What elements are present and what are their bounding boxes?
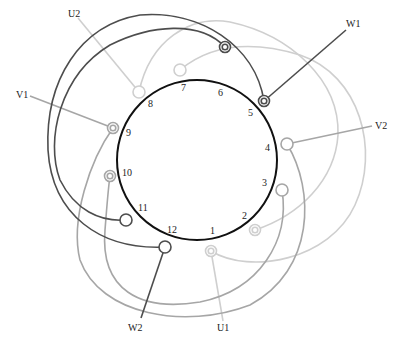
stator-circle	[117, 80, 277, 240]
terminal-label-u1: U1	[217, 322, 229, 333]
slot-labels: 1 2 3 4 5 6 7 8 9 10 11 12	[122, 82, 270, 236]
lead-u2	[78, 18, 139, 92]
lead-v1	[30, 96, 113, 128]
terminal-slot-6-inner	[222, 44, 228, 50]
slot-label-8: 8	[148, 98, 153, 109]
terminal-label-v1: V1	[16, 89, 28, 100]
lead-u1	[211, 251, 223, 321]
terminal-label-u2: U2	[68, 8, 80, 19]
slot-label-12: 12	[167, 224, 177, 235]
terminal-label-w2: W2	[128, 322, 142, 333]
coil-v-b	[77, 128, 304, 317]
slot-label-9: 9	[126, 127, 131, 138]
slot-label-10: 10	[122, 167, 132, 178]
coil-w-b	[48, 15, 264, 248]
slot-label-5: 5	[248, 107, 253, 118]
lead-w1	[264, 30, 346, 101]
terminal-label-v2: V2	[375, 120, 387, 131]
slot-label-7: 7	[181, 82, 186, 93]
slot-label-1: 1	[210, 225, 215, 236]
terminal-slot-4[interactable]	[281, 138, 293, 150]
terminal-slot-11[interactable]	[120, 214, 132, 226]
coil-u-a	[180, 47, 366, 262]
terminal-slot-7[interactable]	[174, 64, 186, 76]
terminal-slot-1-inner	[208, 248, 214, 254]
lead-v2	[287, 126, 372, 144]
terminal-slot-5-inner	[261, 98, 267, 104]
slot-label-2: 2	[242, 210, 247, 221]
terminal-slot-9-inner	[110, 125, 116, 131]
slot-label-3: 3	[262, 177, 267, 188]
terminal-slot-10-inner	[107, 173, 113, 179]
terminal-label-w1: W1	[346, 18, 360, 29]
terminal-slot-12[interactable]	[159, 241, 171, 253]
lead-w2	[141, 247, 165, 318]
terminal-slot-3[interactable]	[276, 184, 288, 196]
slot-label-6: 6	[218, 87, 223, 98]
terminal-slot-2-inner	[252, 227, 258, 233]
terminal-slot-8[interactable]	[133, 86, 145, 98]
slot-label-4: 4	[265, 142, 270, 153]
coil-u-b	[139, 21, 338, 230]
winding-diagram: 1 2 3 4 5 6 7 8 9 10 11 12 U1 U2 V1 V2 W…	[0, 0, 395, 349]
slot-label-11: 11	[138, 202, 148, 213]
